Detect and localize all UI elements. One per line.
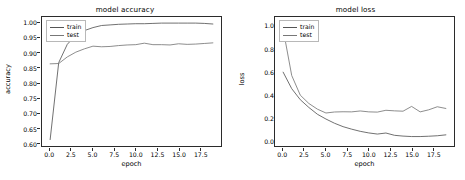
x-tick-label: 7.5: [109, 151, 119, 158]
x-tick-label: 7.5: [342, 151, 352, 158]
y-tick-mark: [37, 67, 40, 68]
x-tick-mark: [157, 148, 158, 151]
legend-entry-label: train: [300, 23, 314, 31]
y-tick-mark: [37, 37, 40, 38]
x-tick-label: 0.0: [277, 151, 287, 158]
x-tick-mark: [70, 148, 71, 151]
y-tick-label: 1.0: [264, 22, 274, 29]
y-tick-label: 0.0: [264, 137, 274, 144]
x-tick-label: 15.0: [172, 151, 186, 158]
legend-entry-label: test: [300, 31, 312, 39]
y-tick-labels-accuracy: 1.000.950.900.850.800.750.700.650.60: [1, 16, 37, 147]
x-tick-mark: [135, 148, 136, 151]
y-tick-mark: [37, 143, 40, 144]
x-tick-mark: [368, 148, 369, 151]
x-tick-label: 5.0: [321, 151, 331, 158]
y-tick-mark: [37, 83, 40, 84]
x-tick-label: 15.0: [405, 151, 419, 158]
legend-entry-test[interactable]: test: [283, 31, 314, 39]
legend-line-swatch-train: [50, 27, 64, 28]
x-tick-label: 0.0: [44, 151, 54, 158]
x-tick-mark: [200, 148, 201, 151]
x-tick-label: 2.5: [66, 151, 76, 158]
y-tick-label: 0.75: [23, 95, 37, 102]
legend-line-swatch-test: [50, 35, 64, 36]
x-tick-mark: [347, 148, 348, 151]
legend-line-swatch-test: [283, 35, 297, 36]
line-train: [283, 72, 446, 136]
x-tick-labels-accuracy: 0.02.55.07.510.012.515.017.5: [41, 148, 222, 162]
x-tick-mark: [92, 148, 93, 151]
figure-canvas: model accuracy accuracy epoch 1.000.950.…: [0, 0, 465, 180]
x-tick-mark: [114, 148, 115, 151]
y-tick-label: 0.8: [264, 45, 274, 52]
x-tick-mark: [303, 148, 304, 151]
x-tick-label: 2.5: [299, 151, 309, 158]
y-tick-mark: [37, 22, 40, 23]
legend-accuracy[interactable]: traintest: [46, 20, 86, 42]
x-tick-mark: [49, 148, 50, 151]
y-tick-label: 1.00: [23, 19, 37, 26]
y-tick-mark: [37, 98, 40, 99]
x-tick-label: 12.5: [384, 151, 398, 158]
y-tick-mark: [37, 128, 40, 129]
x-tick-mark: [282, 148, 283, 151]
y-tick-label: 0.90: [23, 49, 37, 56]
y-tick-label: 0.80: [23, 80, 37, 87]
legend-entry-train[interactable]: train: [50, 23, 81, 31]
y-tick-label: 0.2: [264, 114, 274, 121]
x-tick-label: 17.5: [427, 151, 441, 158]
x-tick-label: 10.0: [362, 151, 376, 158]
legend-entry-train[interactable]: train: [283, 23, 314, 31]
y-tick-label: 0.60: [23, 140, 37, 147]
x-tick-label: 10.0: [129, 151, 143, 158]
legend-entry-label: train: [67, 23, 81, 31]
chart-title-loss: model loss: [232, 5, 465, 14]
legend-line-swatch-train: [283, 27, 297, 28]
y-tick-mark: [37, 52, 40, 53]
y-tick-label: 0.6: [264, 68, 274, 75]
x-tick-mark: [433, 148, 434, 151]
x-tick-mark: [412, 148, 413, 151]
x-tick-mark: [390, 148, 391, 151]
line-test: [50, 43, 213, 64]
legend-loss[interactable]: traintest: [279, 20, 319, 42]
chart-title-accuracy: model accuracy: [0, 5, 232, 14]
y-tick-label: 0.70: [23, 110, 37, 117]
y-tick-label: 0.85: [23, 64, 37, 71]
legend-entry-test[interactable]: test: [50, 31, 81, 39]
x-tick-mark: [179, 148, 180, 151]
y-tick-label: 0.65: [23, 125, 37, 132]
x-tick-labels-loss: 0.02.55.07.510.012.515.017.5: [274, 148, 455, 162]
y-tick-mark: [37, 113, 40, 114]
y-tick-label: 0.95: [23, 34, 37, 41]
x-tick-mark: [325, 148, 326, 151]
y-tick-label: 0.4: [264, 91, 274, 98]
x-tick-label: 12.5: [151, 151, 165, 158]
y-tick-labels-loss: 1.00.80.60.40.20.0: [238, 16, 274, 147]
legend-entry-label: test: [67, 31, 79, 39]
x-tick-label: 5.0: [88, 151, 98, 158]
x-tick-label: 17.5: [194, 151, 208, 158]
subplot-model-accuracy: model accuracy accuracy epoch 1.000.950.…: [0, 0, 232, 180]
